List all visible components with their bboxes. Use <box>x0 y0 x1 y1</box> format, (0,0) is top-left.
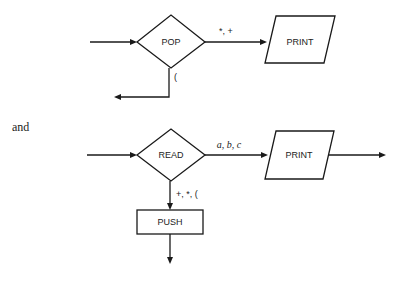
print-label-bottom: PRINT <box>286 150 314 160</box>
bottom-flowchart: READ a, b, c PRINT +, *, ( PUSH <box>87 129 386 264</box>
pop-down-edge-label: ( <box>174 72 177 82</box>
arrowhead-icon <box>114 94 121 100</box>
arrowhead-icon <box>167 203 173 210</box>
read-down-edge-label: +, *, ( <box>176 189 198 199</box>
push-label: PUSH <box>157 217 182 227</box>
arrowhead-icon <box>130 39 137 45</box>
pop-right-edge-label: *, + <box>219 26 233 36</box>
top-flowchart: POP *, + PRINT ( <box>90 15 335 100</box>
flowchart-canvas: POP *, + PRINT ( and READ a, b, c PRINT … <box>0 0 403 282</box>
arrowhead-icon <box>379 152 386 158</box>
arrowhead-icon <box>167 257 173 264</box>
pop-down-left-arrow <box>119 68 169 97</box>
read-label: READ <box>158 150 184 160</box>
print-label-top: PRINT <box>287 37 315 47</box>
connector-and-text: and <box>12 120 29 134</box>
arrowhead-icon <box>261 152 268 158</box>
pop-label: POP <box>161 37 180 47</box>
read-right-edge-label: a, b, c <box>217 139 242 150</box>
arrowhead-icon <box>260 39 267 45</box>
